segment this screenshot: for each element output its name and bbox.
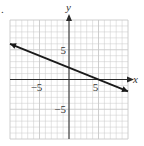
problem-marker: . bbox=[1, 3, 4, 15]
y-tick-label: 5 bbox=[61, 44, 67, 56]
coordinate-plane: . −555−5 x y bbox=[0, 0, 144, 146]
x-tick-label: 5 bbox=[93, 81, 99, 93]
y-axis-label: y bbox=[65, 1, 71, 13]
x-tick-label: −5 bbox=[31, 81, 43, 93]
y-tick-label: −5 bbox=[54, 103, 66, 115]
y-axis-arrow-icon bbox=[66, 14, 72, 21]
axes bbox=[10, 14, 134, 139]
x-axis-label: x bbox=[132, 73, 138, 85]
